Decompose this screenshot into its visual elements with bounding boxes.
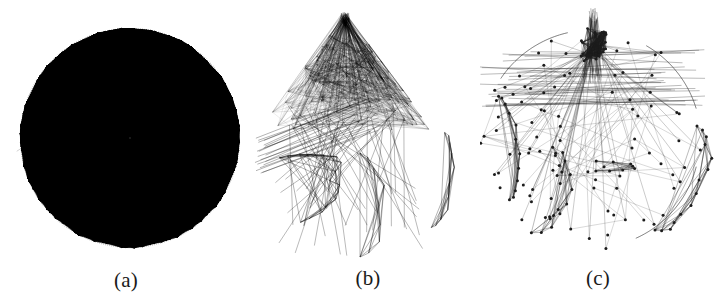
graph-canvas-c — [480, 0, 724, 266]
panel-c-caption: (c) — [476, 266, 720, 291]
graph-canvas-a — [0, 0, 260, 268]
panel-a-circular-layout: (a) — [0, 0, 260, 308]
figure-container: (a) (b) (c) — [0, 0, 724, 308]
panel-a-caption: (a) — [0, 268, 256, 293]
panel-b-force-directed-layout: (b) — [252, 0, 484, 308]
edge-bundle-fan — [272, 12, 428, 130]
graph-canvas-b — [252, 0, 484, 266]
panel-b-caption: (b) — [252, 266, 484, 291]
panel-c-radial-layout: (c) — [480, 0, 724, 308]
